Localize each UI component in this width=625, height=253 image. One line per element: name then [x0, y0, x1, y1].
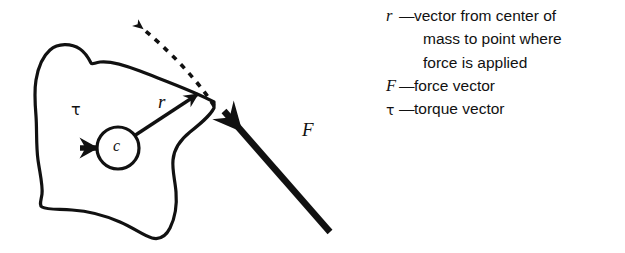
legend-symbol-tau: τ — [386, 99, 399, 122]
legend-item-r: r—vector from center of — [386, 4, 625, 27]
legend-text-r-line3: force is applied — [386, 51, 625, 74]
force-vector-line — [224, 111, 330, 232]
legend-text-f: force vector — [414, 77, 495, 94]
legend-dash-f: — — [399, 77, 414, 94]
torque-diagram-figure: c τ r F r—vector from center of mass to … — [0, 0, 625, 253]
legend: r—vector from center of mass to point wh… — [386, 4, 625, 121]
center-of-mass-label: c — [113, 137, 120, 155]
legend-item-f: F—force vector — [386, 74, 625, 97]
legend-symbol-f: F — [386, 74, 399, 97]
legend-text-r-line2: mass to point where — [386, 27, 625, 50]
legend-text-tau: torque vector — [414, 100, 504, 117]
legend-dash-r: — — [399, 7, 414, 24]
legend-text-r: vector from center of — [414, 7, 556, 24]
force-vector-label: F — [302, 119, 314, 141]
legend-symbol-r: r — [386, 4, 399, 27]
r-vector-label: r — [158, 91, 165, 113]
legend-dash-tau: — — [399, 100, 414, 117]
r-vector-line — [134, 94, 198, 136]
torque-vector-label: τ — [71, 100, 81, 119]
dashed-torque-arrow — [142, 28, 214, 106]
legend-item-tau: τ—torque vector — [386, 97, 625, 121]
